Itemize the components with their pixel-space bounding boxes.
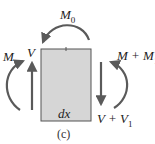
applied-moment-label: M0 — [60, 8, 75, 25]
left-moment-label: M — [3, 50, 14, 63]
element-length-label: dx — [58, 107, 70, 120]
figure-caption: (c) — [57, 128, 70, 140]
left-shear-label: V — [27, 46, 35, 59]
left-moment-arrow-icon — [7, 61, 23, 110]
right-moment-label: M + M1 — [117, 49, 155, 66]
applied-moment-arrow-icon — [43, 25, 89, 42]
right-moment-arrow-icon — [111, 62, 127, 108]
right-shear-label: V + V1 — [97, 112, 132, 129]
